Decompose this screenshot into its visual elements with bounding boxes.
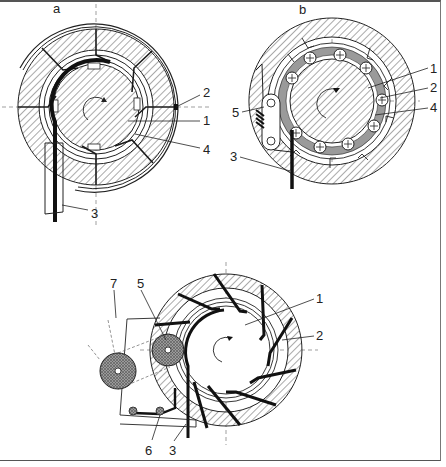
callout-b2: 2 [430, 80, 437, 95]
panel-b-title: b [299, 2, 306, 17]
callout-c5: 5 [137, 276, 144, 291]
callout-b1: 1 [430, 61, 437, 76]
callout-a2: 2 [203, 85, 210, 100]
panel-b: b [230, 2, 437, 189]
callout-a1: 1 [203, 113, 210, 128]
hub [53, 64, 139, 150]
central-disk [182, 306, 270, 394]
callout-b5: 5 [232, 105, 239, 120]
bolt [129, 407, 137, 415]
callout-c7: 7 [110, 276, 117, 291]
callout-b3: 3 [230, 149, 237, 164]
bolt [156, 407, 164, 415]
panel-c: 7 5 1 2 6 3 [88, 262, 323, 458]
diagram-canvas: a [0, 0, 446, 467]
callout-a3: 3 [91, 206, 98, 221]
callout-c6: 6 [145, 443, 152, 458]
callout-c1: 1 [316, 291, 323, 306]
callout-c3: 3 [169, 443, 176, 458]
panel-a: a [2, 1, 210, 225]
callout-c2: 2 [316, 328, 323, 343]
callout-a4: 4 [203, 142, 210, 157]
panel-a-title: a [53, 1, 61, 16]
callout-b4: 4 [430, 100, 437, 115]
